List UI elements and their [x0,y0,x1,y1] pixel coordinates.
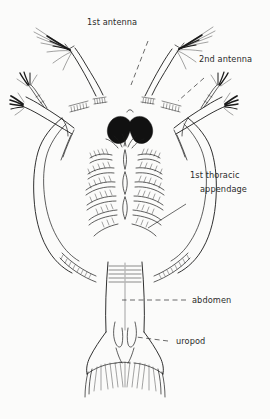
label-first-thoracic-appendage-line2: appendage [200,184,247,194]
label-abdomen: abdomen [192,295,231,305]
label-second-antenna: 2nd antenna [199,54,252,64]
anatomical-figure: 1st antenna 2nd antenna 1st thoracic app… [0,0,270,419]
label-first-antenna: 1st antenna [87,17,137,27]
larva-diagram-svg: 1st antenna 2nd antenna 1st thoracic app… [0,0,270,419]
label-uropod: uropod [176,336,205,346]
label-first-thoracic-appendage-line1: 1st thoracic [190,170,240,180]
